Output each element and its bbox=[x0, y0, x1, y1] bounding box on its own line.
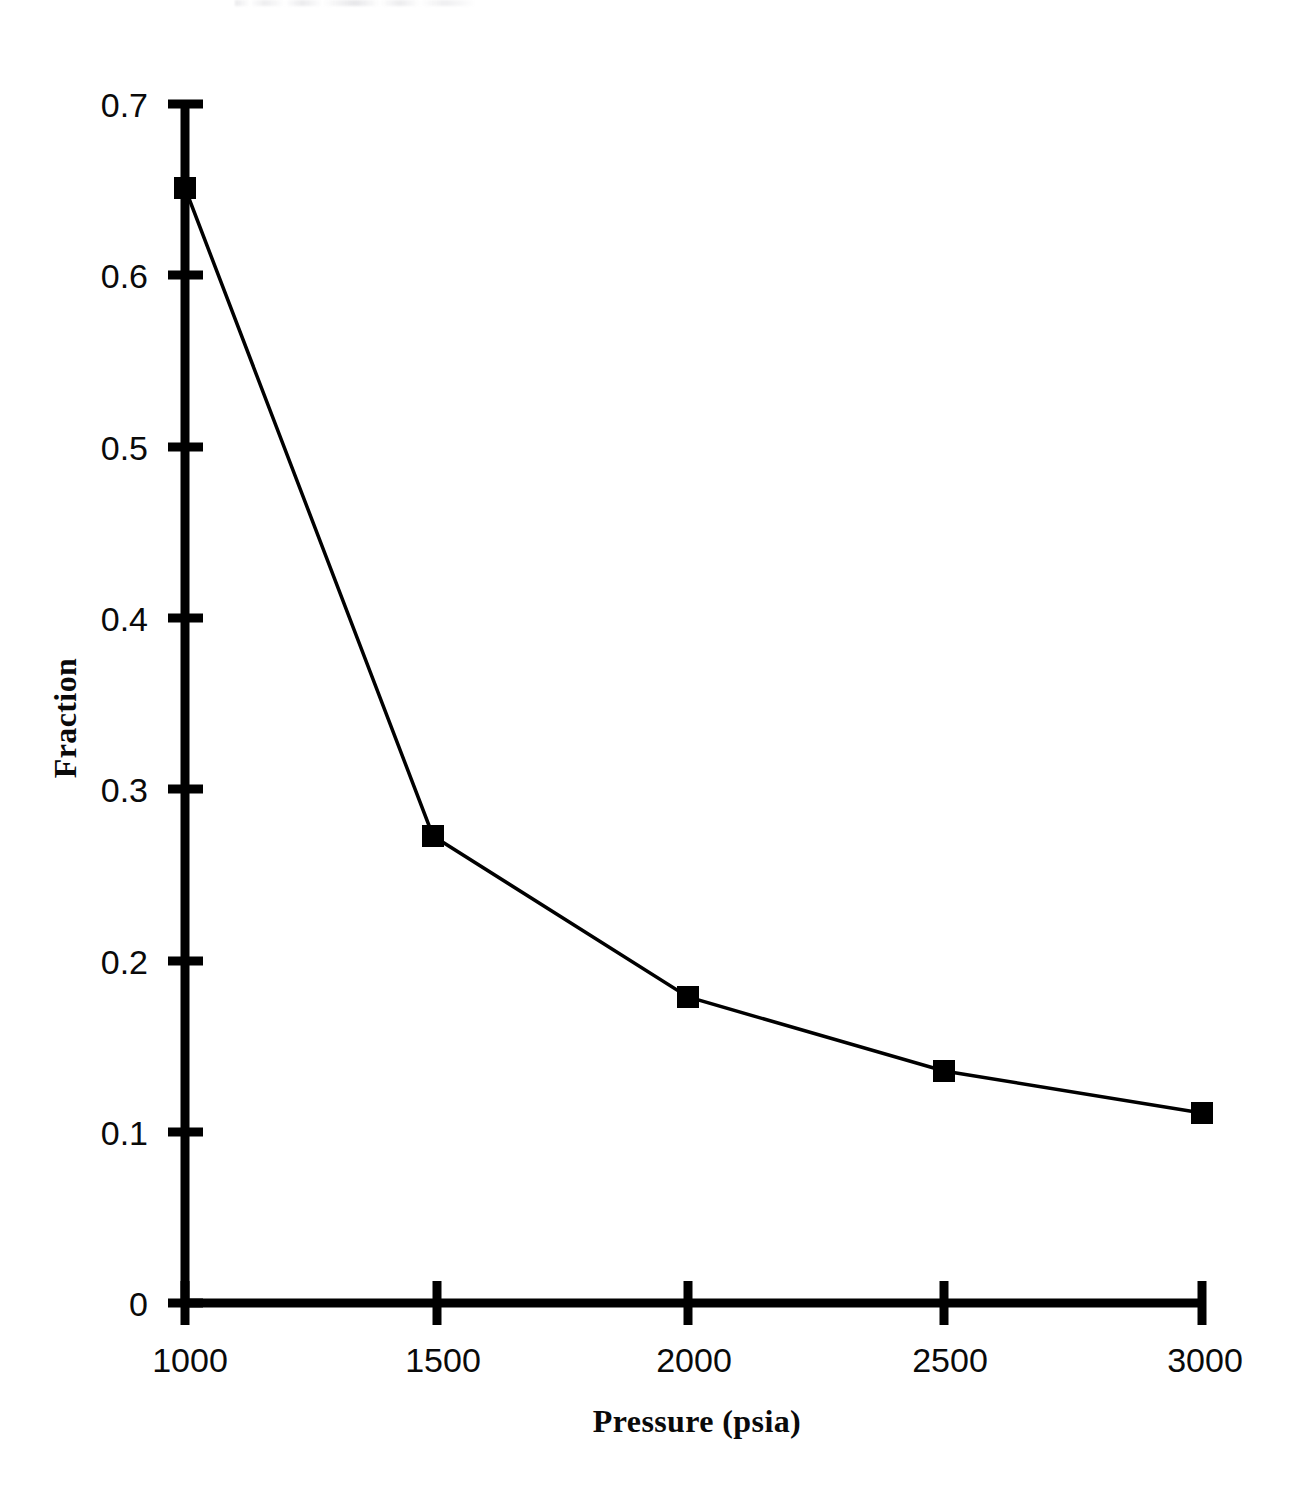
data-point-marker-1000 bbox=[174, 177, 196, 199]
y-tick-label-0: 0 bbox=[129, 1285, 148, 1323]
axis-lines bbox=[185, 104, 1202, 1304]
x-tick-label-1000: 1000 bbox=[152, 1341, 228, 1379]
y-tick-label-0.4: 0.4 bbox=[101, 600, 148, 638]
x-tick-label-group: 1000 1500 2000 2500 3000 bbox=[152, 1341, 1243, 1379]
y-tick-label-0.1: 0.1 bbox=[101, 1114, 148, 1152]
y-tick-label-0.3: 0.3 bbox=[101, 771, 148, 809]
x-tick-label-2000: 2000 bbox=[656, 1341, 732, 1379]
data-line-fraction bbox=[185, 188, 1202, 1113]
data-series-group bbox=[174, 177, 1213, 1124]
x-tick-label-3000: 3000 bbox=[1167, 1341, 1243, 1379]
data-point-marker-2000 bbox=[677, 986, 699, 1008]
y-axis-title: Fraction bbox=[47, 658, 83, 779]
x-tick-label-1500: 1500 bbox=[405, 1341, 481, 1379]
chart-figure: 0.7 0.6 0.5 0.4 0.3 0.2 0.1 0 1000 1500 … bbox=[0, 0, 1296, 1504]
y-tick-label-0.2: 0.2 bbox=[101, 943, 148, 981]
data-point-marker-1500 bbox=[422, 825, 444, 847]
x-axis-title: Pressure (psia) bbox=[593, 1403, 801, 1439]
data-point-marker-2500 bbox=[933, 1060, 955, 1082]
y-tick-label-group: 0.7 0.6 0.5 0.4 0.3 0.2 0.1 0 bbox=[101, 86, 148, 1323]
y-tick-label-0.7: 0.7 bbox=[101, 86, 148, 124]
data-point-marker-3000 bbox=[1191, 1102, 1213, 1124]
y-tick-label-0.5: 0.5 bbox=[101, 429, 148, 467]
x-tick-label-2500: 2500 bbox=[912, 1341, 988, 1379]
line-chart-plot: 0.7 0.6 0.5 0.4 0.3 0.2 0.1 0 1000 1500 … bbox=[0, 0, 1296, 1504]
y-tick-label-0.6: 0.6 bbox=[101, 257, 148, 295]
